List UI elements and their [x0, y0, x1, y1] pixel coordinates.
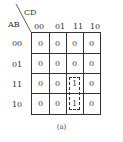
cell-r1-c3: 0 [83, 53, 100, 73]
col-header-3: 10 [90, 22, 100, 31]
cell-r0-c2: 0 [66, 33, 83, 53]
row-header-2: 11 [12, 80, 22, 89]
cell-r1-c1: 0 [49, 53, 66, 73]
grouping-loop [69, 77, 80, 110]
kmap-grid: 0 0 0 0 0 0 0 0 0 0 1 0 0 0 1 0 [31, 32, 101, 115]
cell-r2-c1: 0 [49, 73, 66, 93]
karnaugh-map-diagram: CD AB 00 01 11 10 00 01 11 10 0 0 0 0 0 … [0, 0, 123, 142]
cell-r3-c1: 0 [49, 93, 66, 114]
col-header-1: 01 [55, 22, 65, 31]
cell-r0-c0: 0 [32, 33, 49, 53]
cell-r2-c3: 0 [83, 73, 100, 93]
row-header-3: 10 [12, 100, 22, 109]
row-var-label: AB [8, 20, 20, 29]
col-var-label: CD [24, 8, 37, 17]
cell-r0-c3: 0 [83, 33, 100, 53]
row-header-0: 00 [12, 39, 22, 48]
cell-r2-c0: 0 [32, 73, 49, 93]
col-header-0: 00 [34, 22, 44, 31]
col-header-2: 11 [73, 22, 83, 31]
figure-caption: (a) [0, 123, 123, 131]
row-header-1: 01 [12, 60, 22, 69]
cell-r3-c0: 0 [32, 93, 49, 114]
cell-r1-c0: 0 [32, 53, 49, 73]
cell-r1-c2: 0 [66, 53, 83, 73]
cell-r0-c1: 0 [49, 33, 66, 53]
cell-r3-c3: 0 [83, 93, 100, 114]
